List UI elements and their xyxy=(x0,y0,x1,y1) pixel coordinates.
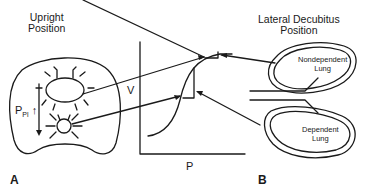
upper-alveolus xyxy=(46,78,84,102)
upper-airway xyxy=(54,67,76,78)
pleural-pressure-label: PPl ↑ xyxy=(15,105,37,120)
panel-a-letter: A xyxy=(10,173,19,187)
x-axis-label: P xyxy=(186,160,193,172)
panel-b-letter: B xyxy=(258,173,267,187)
panel-b-title: Lateral Decubitus Position xyxy=(258,14,340,36)
panel-a-title: Upright Position xyxy=(28,12,65,34)
dependent-lung-label: Dependent Lung xyxy=(302,126,339,143)
lower-alveolus xyxy=(57,119,71,133)
pv-curve xyxy=(148,54,232,136)
nondependent-lung-label: Nondependent Lung xyxy=(298,56,347,73)
y-axis-label: V xyxy=(127,84,134,96)
